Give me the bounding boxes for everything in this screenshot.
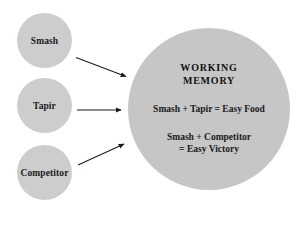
arrow-competitor-to-working-memory [78,144,124,165]
working-memory-title-line-2: MEMORY [128,75,290,88]
working-memory-content: WORKING MEMORY Smash + Tapir = Easy Food… [128,62,290,155]
node-competitor[interactable]: Competitor [17,145,72,200]
equation-easy-victory-line-2: = Easy Victory [128,143,290,155]
node-smash-label: Smash [31,36,58,46]
diagram-canvas: Smash Tapir Competitor WORKING MEMORY Sm… [0,0,308,225]
arrow-smash-to-working-memory [76,58,126,77]
equation-easy-victory-line-1: Smash + Competitor [128,131,290,143]
node-tapir[interactable]: Tapir [17,78,72,133]
equation-easy-food: Smash + Tapir = Easy Food [128,103,290,115]
node-tapir-label: Tapir [33,101,56,111]
node-working-memory[interactable]: WORKING MEMORY Smash + Tapir = Easy Food… [128,28,290,190]
node-competitor-label: Competitor [21,168,69,178]
node-smash[interactable]: Smash [17,13,72,68]
working-memory-title-line-1: WORKING [128,62,290,75]
